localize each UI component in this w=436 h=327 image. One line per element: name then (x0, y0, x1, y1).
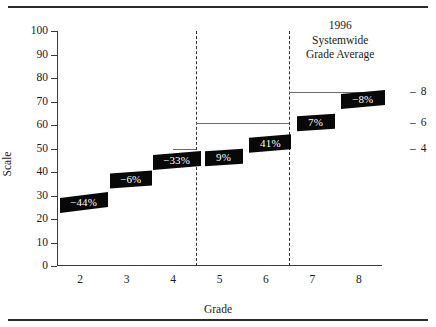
y-tick (51, 102, 57, 103)
y-tick (51, 266, 57, 267)
y-tick-label: 60 (37, 119, 49, 131)
x-axis-title: Grade (204, 303, 232, 315)
right-axis-label: –8 (410, 86, 427, 98)
value-tag: −6% (110, 170, 152, 188)
y-tick (51, 149, 57, 150)
divider-line (196, 31, 197, 266)
value-tag: 7% (297, 114, 335, 132)
y-tick (51, 172, 57, 173)
plot-area: 01020304050607080901002345678–8–6–4−44%−… (57, 31, 382, 266)
value-tag-label: 41% (260, 138, 281, 149)
bottom-rule (8, 319, 428, 321)
y-tick (51, 196, 57, 197)
x-tick-label: 8 (356, 274, 362, 286)
y-tick-label: 30 (37, 190, 49, 202)
figure: Scale Grade 1996SystemwideGrade Average … (0, 0, 436, 327)
value-tag-label: −8% (352, 94, 373, 105)
x-tick-label: 5 (217, 274, 223, 286)
right-axis-label: –4 (410, 143, 427, 155)
y-tick (51, 78, 57, 79)
y-tick-label: 50 (37, 143, 49, 155)
y-tick (51, 219, 57, 220)
right-axis-dash: – (410, 143, 416, 155)
value-tag-label: −33% (163, 155, 190, 166)
value-tag-label: −6% (120, 174, 141, 185)
x-tick-label: 4 (170, 274, 176, 286)
y-tick (51, 243, 57, 244)
right-axis-dash: – (410, 117, 416, 129)
y-tick (51, 125, 57, 126)
value-tag-label: 9% (216, 152, 231, 163)
value-tag-label: 7% (309, 117, 324, 128)
y-tick (51, 31, 57, 32)
value-tag: −33% (153, 151, 201, 170)
value-tag: −8% (341, 90, 385, 109)
value-tag-label: −44% (71, 197, 98, 208)
y-axis-line (57, 31, 58, 266)
level-segment (196, 123, 289, 124)
right-axis-label: –6 (410, 117, 427, 129)
value-tag: 41% (249, 134, 291, 153)
x-tick-label: 6 (263, 274, 269, 286)
y-tick (51, 55, 57, 56)
x-axis-line (57, 265, 382, 266)
y-tick-label: 70 (37, 96, 49, 108)
y-tick-label: 40 (37, 166, 49, 178)
y-tick-label: 20 (37, 213, 49, 225)
x-tick-label: 3 (124, 274, 130, 286)
top-rule (8, 6, 428, 8)
level-segment (173, 149, 196, 150)
value-tag: −44% (60, 192, 108, 213)
y-tick-label: 80 (37, 72, 49, 84)
x-tick-label: 7 (309, 274, 315, 286)
y-tick-label: 0 (42, 260, 48, 272)
y-axis-title: Scale (1, 151, 13, 176)
right-axis-dash: – (410, 86, 416, 98)
y-tick-label: 100 (31, 25, 48, 37)
y-tick-label: 10 (37, 237, 49, 249)
x-tick-label: 2 (77, 274, 83, 286)
y-tick-label: 90 (37, 49, 49, 61)
value-tag: 9% (205, 149, 243, 167)
